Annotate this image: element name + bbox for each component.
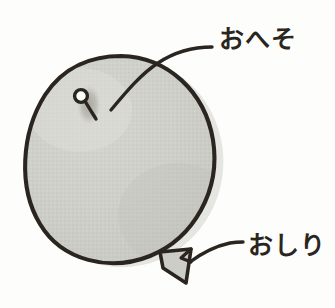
label-navel: おへそ [219, 27, 297, 52]
leader-line-bottom [190, 242, 243, 262]
label-bottom: おしり [248, 233, 326, 258]
balloon-nozzle [160, 249, 191, 283]
illustration-page: おへそ おしり [0, 0, 335, 308]
